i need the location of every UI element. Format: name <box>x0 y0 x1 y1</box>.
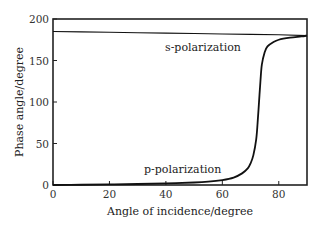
x-tick-label: 80 <box>272 188 285 200</box>
phase-angle-chart: 020406080050100150200 s-polarization p-p… <box>0 0 323 230</box>
data-series <box>53 31 307 185</box>
s-polarization-label: s-polarization <box>165 41 241 54</box>
y-tick-label: 100 <box>29 96 49 108</box>
x-axis-title: Angle of incidence/degree <box>106 205 253 218</box>
y-tick-label: 0 <box>42 179 49 191</box>
s-polarization-curve <box>53 31 307 35</box>
y-tick-label: 200 <box>29 13 49 25</box>
y-tick-label: 50 <box>36 138 49 150</box>
x-tick-label: 40 <box>159 188 172 200</box>
x-tick-label: 0 <box>50 188 57 200</box>
x-tick-label: 60 <box>216 188 229 200</box>
y-axis-title: Phase angle/degree <box>13 47 26 157</box>
y-tick-label: 150 <box>29 55 49 67</box>
p-polarization-label: p-polarization <box>144 163 221 176</box>
x-tick-label: 20 <box>103 188 116 200</box>
